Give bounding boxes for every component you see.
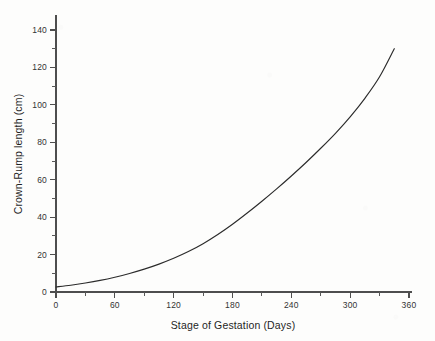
- figure-container: 060120180240300360 020406080100120140 St…: [0, 0, 435, 341]
- y-tick-label: 100: [32, 100, 47, 110]
- y-tick-label: 80: [37, 137, 47, 147]
- x-axis-ticks: [56, 292, 409, 298]
- x-tick-label: 300: [343, 300, 358, 310]
- x-axis-tick-labels: 060120180240300360: [54, 300, 417, 310]
- x-tick-label: 120: [166, 300, 181, 310]
- axes-group: [56, 15, 412, 292]
- growth-curve-chart: 060120180240300360 020406080100120140 St…: [0, 0, 435, 341]
- x-tick-label: 240: [284, 300, 299, 310]
- series-group: [56, 49, 394, 287]
- x-axis-title: Stage of Gestation (Days): [171, 319, 296, 331]
- y-axis-tick-labels: 020406080100120140: [32, 25, 47, 297]
- crown-rump-length-curve: [56, 49, 394, 287]
- x-tick-label: 60: [110, 300, 120, 310]
- y-tick-label: 0: [42, 287, 47, 297]
- y-tick-label: 40: [37, 212, 47, 222]
- y-tick-label: 140: [32, 25, 47, 35]
- x-tick-label: 180: [225, 300, 240, 310]
- y-axis-ticks: [50, 30, 56, 292]
- x-tick-label: 0: [54, 300, 59, 310]
- x-tick-label: 360: [402, 300, 417, 310]
- y-axis-title: Crown-Rump length (cm): [12, 94, 24, 215]
- y-tick-label: 120: [32, 62, 47, 72]
- y-tick-label: 20: [37, 250, 47, 260]
- y-tick-label: 60: [37, 175, 47, 185]
